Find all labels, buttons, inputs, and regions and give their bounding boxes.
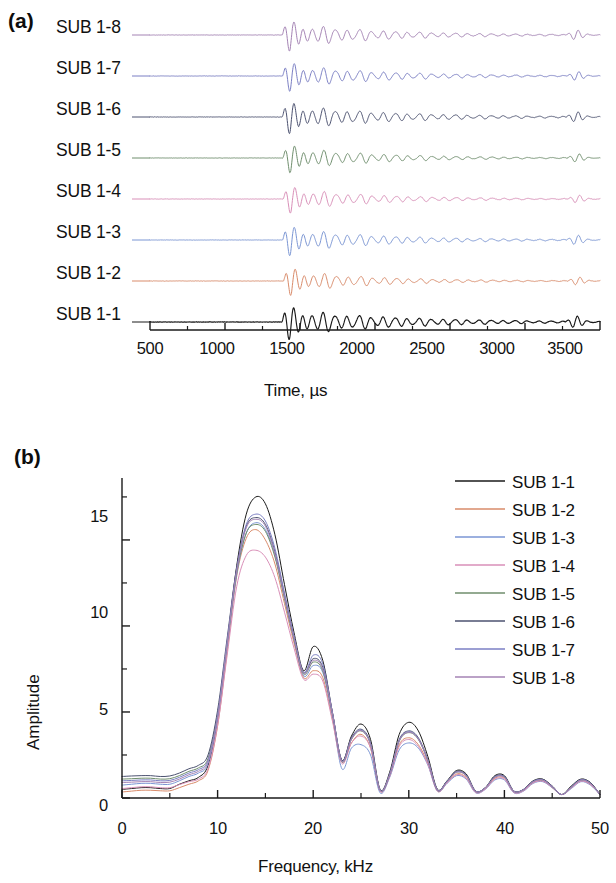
xtick-a-500: 500 — [126, 339, 174, 358]
xtick-a-3500: 3500 — [541, 339, 589, 358]
panel-a-xaxis-title: Time, µs — [264, 381, 327, 401]
xtick-b-0: 0 — [100, 819, 144, 838]
xtick-b-20: 20 — [291, 819, 335, 838]
figure-container: (a) SUB 1-8 SUB 1-7 SUB 1-6 SUB 1-5 SUB … — [0, 0, 616, 883]
xtick-b-40: 40 — [483, 819, 527, 838]
ytick-b-0: 0 — [72, 796, 108, 815]
xtick-a-2500: 2500 — [403, 339, 451, 358]
xtick-a-1500: 1500 — [263, 339, 311, 358]
xtick-b-10: 10 — [196, 819, 240, 838]
legend-label-sub-1-6: SUB 1-6 — [512, 613, 575, 633]
legend-label-sub-1-8: SUB 1-8 — [512, 669, 575, 689]
legend-label-sub-1-4: SUB 1-4 — [512, 557, 575, 577]
legend-label-sub-1-1: SUB 1-1 — [512, 473, 575, 493]
xtick-b-50: 50 — [578, 819, 616, 838]
xtick-a-2000: 2000 — [333, 339, 381, 358]
xtick-b-30: 30 — [387, 819, 431, 838]
ytick-b-5: 5 — [72, 700, 108, 719]
ytick-b-10: 10 — [72, 603, 108, 622]
xtick-a-1000: 1000 — [193, 339, 241, 358]
panel-a-waveforms: (a) SUB 1-8 SUB 1-7 SUB 1-6 SUB 1-5 SUB … — [0, 0, 616, 420]
legend-label-sub-1-2: SUB 1-2 — [512, 501, 575, 521]
legend-label-sub-1-5: SUB 1-5 — [512, 585, 575, 605]
xtick-a-3000: 3000 — [473, 339, 521, 358]
legend-label-sub-1-7: SUB 1-7 — [512, 641, 575, 661]
panel-b-spectrum: (b) Amplitude 15 10 5 0 0 10 20 30 40 50… — [0, 420, 616, 883]
panel-b-xaxis-title: Frequency, kHz — [258, 857, 373, 877]
ytick-b-15: 15 — [72, 507, 108, 526]
legend-label-sub-1-3: SUB 1-3 — [512, 529, 575, 549]
